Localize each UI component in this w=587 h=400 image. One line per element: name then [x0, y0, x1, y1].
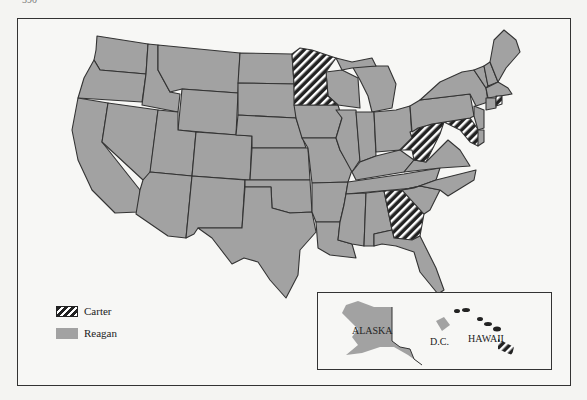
gray-swatch-icon [56, 328, 78, 339]
state-maine [490, 30, 520, 82]
state-iowa [294, 105, 342, 138]
state-kansas [250, 148, 310, 180]
state-colorado [192, 132, 252, 180]
state-north-dakota [238, 53, 294, 84]
legend-item-carter: Carter [56, 300, 117, 322]
state-florida [374, 230, 444, 294]
hawaii-label: HAWAII [468, 333, 504, 344]
legend: Carter Reagan [56, 300, 117, 344]
inset-box: ALASKA D.C. HAWAII [317, 292, 552, 370]
state-arizona [136, 172, 192, 238]
legend-label: Carter [84, 305, 111, 317]
state-hawaii [454, 308, 514, 355]
legend-label: Reagan [84, 327, 117, 339]
state-washington [94, 36, 148, 74]
state-indiana [356, 112, 376, 162]
state-south-dakota [238, 83, 296, 118]
district-dc [436, 317, 450, 331]
hatched-swatch-icon [56, 306, 78, 317]
state-montana [158, 45, 240, 93]
state-rhode-island [496, 96, 502, 106]
legend-item-reagan: Reagan [56, 322, 117, 344]
state-wyoming [178, 89, 238, 135]
state-connecticut [486, 98, 496, 110]
alaska-label: ALASKA [352, 325, 393, 336]
dc-label: D.C. [430, 336, 449, 347]
state-delaware [478, 130, 484, 146]
